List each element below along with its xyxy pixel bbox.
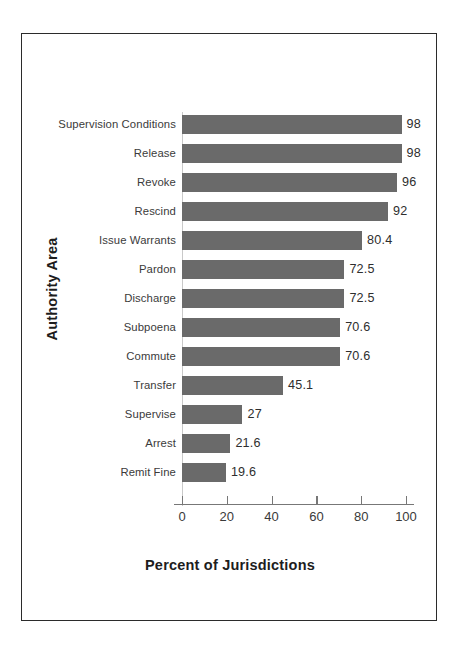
bar-value-label: 45.1 bbox=[288, 376, 313, 395]
bar-value-label: 92 bbox=[393, 202, 407, 221]
x-axis-tick-label: 100 bbox=[386, 509, 426, 524]
bar-track bbox=[182, 463, 226, 482]
bar-category-label: Pardon bbox=[139, 260, 176, 279]
bar-track bbox=[182, 144, 402, 163]
bar bbox=[182, 376, 283, 395]
x-axis-tick-label: 80 bbox=[341, 509, 381, 524]
x-axis-tick bbox=[406, 496, 407, 505]
bar bbox=[182, 405, 242, 424]
x-axis-tick bbox=[182, 496, 183, 505]
bar bbox=[182, 347, 340, 366]
bar-category-label: Commute bbox=[126, 347, 176, 366]
bar-value-label: 70.6 bbox=[345, 347, 370, 366]
bar-category-label: Supervision Conditions bbox=[58, 115, 176, 134]
bar-value-label: 96 bbox=[402, 173, 416, 192]
bar-track bbox=[182, 405, 242, 424]
bar-category-label: Remit Fine bbox=[120, 463, 176, 482]
bar-track bbox=[182, 434, 230, 453]
bar-row: Arrest21.6 bbox=[22, 434, 438, 463]
bar-track bbox=[182, 318, 340, 337]
bar-track bbox=[182, 115, 402, 134]
bar-category-label: Discharge bbox=[124, 289, 176, 308]
bar-row: Pardon72.5 bbox=[22, 260, 438, 289]
bar-category-label: Release bbox=[134, 144, 176, 163]
bar-row: Transfer45.1 bbox=[22, 376, 438, 405]
bar-value-label: 21.6 bbox=[235, 434, 260, 453]
bar bbox=[182, 463, 226, 482]
bar bbox=[182, 231, 362, 250]
bar-row: Remit Fine19.6 bbox=[22, 463, 438, 492]
bar-track bbox=[182, 260, 344, 279]
x-axis-tick-label: 0 bbox=[162, 509, 202, 524]
bar-category-label: Arrest bbox=[145, 434, 176, 453]
bar-track bbox=[182, 173, 397, 192]
bar-row: Supervise27 bbox=[22, 405, 438, 434]
bar-category-label: Supervise bbox=[125, 405, 176, 424]
bar-track bbox=[182, 347, 340, 366]
x-axis-tick-label: 20 bbox=[207, 509, 247, 524]
bar-value-label: 72.5 bbox=[349, 289, 374, 308]
bar-track bbox=[182, 231, 362, 250]
bar-row: Rescind92 bbox=[22, 202, 438, 231]
bar-row: Release98 bbox=[22, 144, 438, 173]
bar bbox=[182, 260, 344, 279]
x-axis-tick bbox=[227, 496, 228, 505]
bar-track bbox=[182, 289, 344, 308]
bar-category-label: Transfer bbox=[134, 376, 176, 395]
bar bbox=[182, 202, 388, 221]
bar-value-label: 27 bbox=[247, 405, 261, 424]
bar-row: Commute70.6 bbox=[22, 347, 438, 376]
bar-track bbox=[182, 202, 388, 221]
bar-track bbox=[182, 376, 283, 395]
bar-row: Revoke96 bbox=[22, 173, 438, 202]
bar-value-label: 98 bbox=[407, 115, 421, 134]
bar-category-label: Revoke bbox=[137, 173, 176, 192]
y-axis-title: Authority Area bbox=[44, 238, 60, 341]
bar bbox=[182, 144, 402, 163]
bar-rows: Supervision Conditions98Release98Revoke9… bbox=[22, 115, 438, 492]
bar-value-label: 72.5 bbox=[349, 260, 374, 279]
bar bbox=[182, 115, 402, 134]
bar-value-label: 70.6 bbox=[345, 318, 370, 337]
bar-row: Issue Warrants80.4 bbox=[22, 231, 438, 260]
x-axis-tick bbox=[361, 496, 362, 505]
plot-area: Supervision Conditions98Release98Revoke9… bbox=[22, 34, 438, 622]
bar-category-label: Rescind bbox=[134, 202, 176, 221]
x-axis-title: Percent of Jurisdictions bbox=[22, 557, 438, 573]
bar-category-label: Issue Warrants bbox=[99, 231, 176, 250]
bar-row: Discharge72.5 bbox=[22, 289, 438, 318]
bar bbox=[182, 289, 344, 308]
bar-value-label: 80.4 bbox=[367, 231, 392, 250]
bar-category-label: Subpoena bbox=[124, 318, 176, 337]
x-axis-tick-label: 60 bbox=[296, 509, 336, 524]
x-axis-tick bbox=[316, 496, 317, 505]
bar-row: Subpoena70.6 bbox=[22, 318, 438, 347]
bar bbox=[182, 318, 340, 337]
x-axis-tick-label: 40 bbox=[252, 509, 292, 524]
bar-row: Supervision Conditions98 bbox=[22, 115, 438, 144]
x-axis-tick bbox=[272, 496, 273, 505]
bar bbox=[182, 173, 397, 192]
figure-frame: Supervision Conditions98Release98Revoke9… bbox=[21, 33, 437, 621]
bar-value-label: 98 bbox=[407, 144, 421, 163]
x-axis-line bbox=[174, 504, 414, 505]
bar bbox=[182, 434, 230, 453]
bar-value-label: 19.6 bbox=[231, 463, 256, 482]
